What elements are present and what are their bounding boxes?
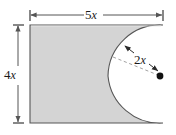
height-label: 4x [4, 68, 16, 81]
width-label: 5x [85, 8, 97, 21]
geometry-figure: 5x 4x 2x [0, 0, 176, 135]
radius-label-variable: x [141, 53, 146, 67]
circle-center-dot [157, 73, 164, 80]
width-label-variable: x [92, 8, 97, 22]
radius-label: 2x [134, 53, 146, 66]
height-label-variable: x [11, 68, 16, 82]
shaded-region-shape [30, 25, 163, 123]
